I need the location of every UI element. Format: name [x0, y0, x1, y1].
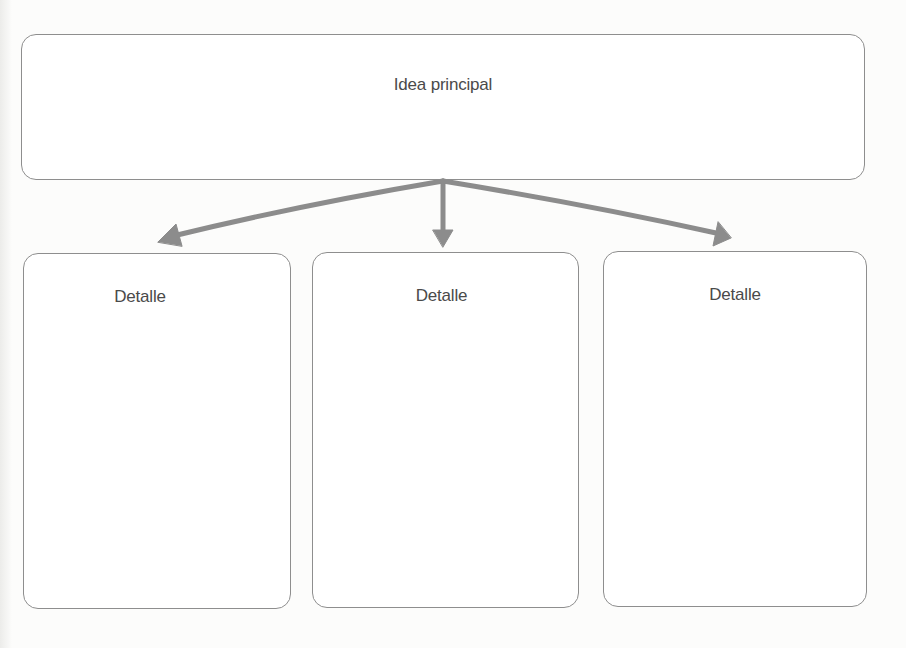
arrow-to-detail-3 — [443, 181, 731, 246]
detail-box-1[interactable]: Detalle — [23, 253, 291, 609]
detail-label-3: Detalle — [604, 285, 866, 305]
detail-label-2: Detalle — [313, 286, 578, 306]
arrow-to-detail-1 — [158, 181, 443, 246]
main-idea-box[interactable]: Idea principal — [21, 34, 865, 180]
detail-box-3[interactable]: Detalle — [603, 251, 867, 607]
arrow-to-detail-2 — [433, 181, 453, 247]
detail-box-2[interactable]: Detalle — [312, 252, 579, 608]
main-idea-label: Idea principal — [22, 75, 864, 95]
scan-shadow — [0, 0, 12, 648]
detail-label-1: Detalle — [24, 287, 290, 307]
